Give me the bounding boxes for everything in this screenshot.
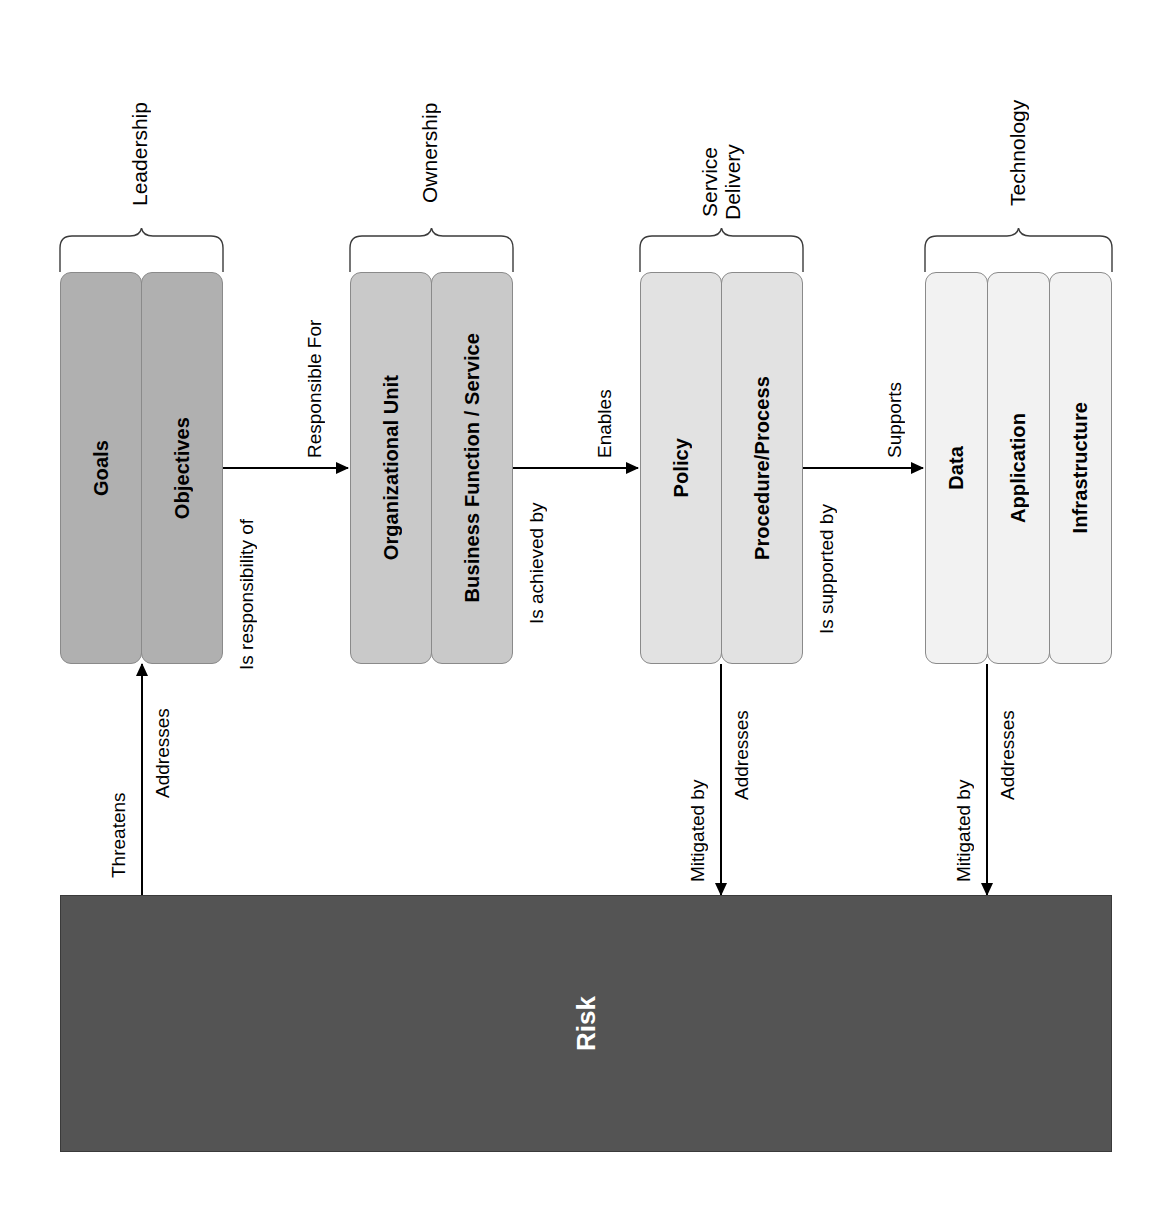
cell-label: Organizational Unit — [380, 375, 403, 560]
group-caption-service-delivery: Service Delivery — [698, 140, 752, 224]
group-technology: Data Application Infrastructure — [925, 272, 1112, 664]
risk-edge-label-left-3: Mitigated by — [953, 730, 977, 882]
group-service-delivery-cells: Policy Procedure/Process — [640, 272, 803, 664]
cell-label: Policy — [670, 438, 693, 498]
group-technology-cells: Data Application Infrastructure — [925, 272, 1112, 664]
cell-label: Application — [1007, 413, 1030, 523]
diagram-canvas: Goals Objectives Leadership Organization… — [0, 0, 1156, 1221]
risk-edge-label-right-3: Addresses — [997, 672, 1021, 800]
cell-application[interactable]: Application — [987, 272, 1050, 664]
risk-edge-label-left-1: Threatens — [108, 748, 132, 878]
cell-label: Procedure/Process — [751, 376, 774, 560]
risk-arrow-mitigated-by-addresses-1 — [715, 664, 727, 895]
group-caption-technology: Technology — [1006, 84, 1032, 222]
arrow-head-right-icon — [626, 462, 639, 474]
group-leadership: Goals Objectives — [60, 272, 223, 664]
arrow-shaft — [986, 664, 988, 895]
brace-ownership — [348, 228, 515, 272]
arrow-head-up-icon — [136, 663, 148, 676]
connector-label-below-3: Is supported by — [816, 474, 840, 634]
cell-organizational-unit[interactable]: Organizational Unit — [350, 272, 432, 664]
cell-label: Infrastructure — [1069, 402, 1092, 533]
cell-policy[interactable]: Policy — [640, 272, 722, 664]
connector-label-above-2: Enables — [594, 372, 618, 458]
group-ownership: Organizational Unit Business Function / … — [350, 272, 513, 664]
group-ownership-cells: Organizational Unit Business Function / … — [350, 272, 513, 664]
connector-arrow-enables — [513, 462, 638, 474]
arrow-shaft — [513, 467, 638, 469]
cell-procedure-process[interactable]: Procedure/Process — [721, 272, 803, 664]
cell-label: Business Function / Service — [461, 333, 484, 602]
risk-edge-label-left-2: Mitigated by — [687, 730, 711, 882]
connector-label-below-2: Is achieved by — [526, 474, 550, 624]
risk-bar[interactable]: Risk — [60, 895, 1112, 1152]
cell-goals[interactable]: Goals — [60, 272, 142, 664]
group-caption-leadership: Leadership — [128, 86, 154, 222]
cell-objectives[interactable]: Objectives — [141, 272, 223, 664]
cell-data[interactable]: Data — [925, 272, 988, 664]
brace-technology — [923, 228, 1114, 272]
group-leadership-cells: Goals Objectives — [60, 272, 223, 664]
risk-edge-label-right-1: Addresses — [152, 670, 176, 798]
connector-arrow-responsible-for — [223, 462, 348, 474]
risk-arrow-mitigated-by-addresses-2 — [981, 664, 993, 895]
risk-bar-label: Risk — [571, 996, 602, 1051]
arrow-shaft — [803, 467, 923, 469]
arrow-head-right-icon — [336, 462, 349, 474]
arrow-shaft — [141, 664, 143, 895]
connector-label-below-1: Is responsibility of — [236, 474, 260, 670]
group-caption-ownership: Ownership — [418, 84, 444, 222]
risk-edge-label-right-2: Addresses — [731, 672, 755, 800]
cell-label: Data — [945, 446, 968, 490]
brace-service-delivery — [638, 228, 805, 272]
brace-leadership — [58, 228, 225, 272]
arrow-shaft — [720, 664, 722, 895]
cell-business-function-service[interactable]: Business Function / Service — [431, 272, 513, 664]
connector-label-above-1: Responsible For — [304, 326, 328, 458]
group-service-delivery: Policy Procedure/Process — [640, 272, 803, 664]
cell-label: Goals — [90, 440, 113, 496]
cell-infrastructure[interactable]: Infrastructure — [1049, 272, 1112, 664]
connector-arrow-supports — [803, 462, 923, 474]
risk-arrow-threatens-addresses — [136, 664, 148, 895]
cell-label: Objectives — [171, 417, 194, 519]
arrow-shaft — [223, 467, 348, 469]
arrow-head-right-icon — [911, 462, 924, 474]
connector-label-above-3: Supports — [884, 368, 908, 458]
